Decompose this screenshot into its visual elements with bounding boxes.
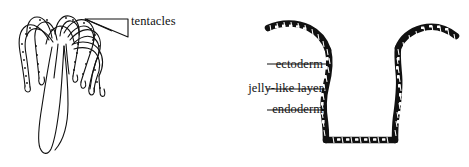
hydra-tentacle-tip bbox=[81, 81, 86, 88]
body-wall-right bbox=[395, 27, 456, 140]
hydra-tentacle-tip bbox=[39, 77, 45, 85]
label-tentacles: tentacles bbox=[131, 15, 176, 28]
hydra-body-outline bbox=[39, 46, 64, 153]
hydra-whole-drawing bbox=[0, 0, 225, 167]
hydra-whole-organism-panel bbox=[0, 0, 225, 167]
hydra-tentacle-tip bbox=[99, 76, 105, 96]
hydra-tentacle-inner bbox=[35, 22, 57, 78]
hydra-tentacle bbox=[55, 16, 79, 35]
hydra-tentacle-tip bbox=[73, 75, 78, 82]
hydra-body-right-edge bbox=[55, 46, 68, 150]
hydra-tentacle bbox=[19, 25, 49, 86]
label-ectoderm: ectoderm bbox=[276, 58, 323, 71]
label-endoderm: endoderm bbox=[272, 103, 323, 116]
hydra-tentacle-stub bbox=[54, 44, 58, 78]
tentacles-pointer bbox=[85, 19, 128, 37]
hydra-tentacle-tip bbox=[25, 86, 31, 92]
label-jelly-like-layer: jelly-like layer bbox=[248, 82, 323, 95]
hydra-figure: tentacles ectoderm jelly-like layer endo… bbox=[0, 0, 469, 167]
